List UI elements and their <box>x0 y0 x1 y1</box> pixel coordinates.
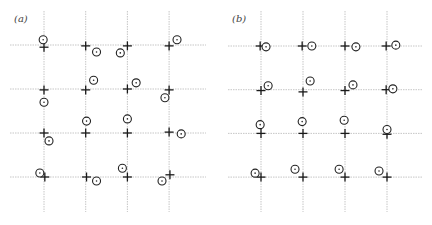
lattice-cross-marker <box>299 129 308 138</box>
displaced-circle-marker <box>335 165 343 173</box>
displaced-circle-marker <box>123 115 131 123</box>
displaced-circle-marker <box>177 130 185 138</box>
displaced-circle-marker <box>40 98 48 106</box>
displaced-circle-marker <box>340 116 348 124</box>
panel-b-grid <box>228 11 422 212</box>
displaced-circle-marker <box>383 125 391 133</box>
displaced-circle-marker <box>39 36 47 44</box>
displaced-circle-marker <box>90 76 98 84</box>
panel-a-label: (a) <box>14 13 28 24</box>
displaced-circle-marker <box>161 94 169 102</box>
displaced-circle-marker <box>93 177 101 185</box>
displaced-circle-marker <box>291 165 299 173</box>
displaced-circle-marker <box>298 118 306 126</box>
lattice-cross-marker <box>341 129 350 138</box>
lattice-figure: (a) (b) <box>0 0 432 225</box>
panel-a-markers <box>36 36 185 185</box>
lattice-cross-marker <box>299 173 308 182</box>
lattice-cross-marker <box>123 41 132 50</box>
lattice-cross-marker <box>165 170 174 179</box>
lattice-cross-marker <box>123 129 132 138</box>
displaced-circle-marker <box>375 167 383 175</box>
panel-b-label: (b) <box>232 13 246 24</box>
displaced-circle-marker <box>45 137 53 145</box>
lattice-cross-marker <box>40 85 49 94</box>
lattice-cross-marker <box>81 85 90 94</box>
panel-b: (b) <box>228 11 422 212</box>
lattice-cross-marker <box>40 129 49 138</box>
displaced-circle-marker <box>173 36 181 44</box>
lattice-cross-marker <box>82 173 91 182</box>
displaced-circle-marker <box>132 79 140 87</box>
lattice-cross-marker <box>341 42 350 51</box>
lattice-cross-marker <box>123 173 132 182</box>
displaced-circle-marker <box>392 41 400 49</box>
lattice-cross-marker <box>257 129 266 138</box>
lattice-cross-marker <box>123 85 132 94</box>
displaced-circle-marker <box>256 121 264 129</box>
displaced-circle-marker <box>158 177 166 185</box>
displaced-circle-marker <box>306 77 314 85</box>
displaced-circle-marker <box>251 169 259 177</box>
displaced-circle-marker <box>349 81 357 89</box>
displaced-circle-marker <box>83 117 91 125</box>
lattice-cross-marker <box>165 85 174 94</box>
displaced-circle-marker <box>389 85 397 93</box>
lattice-cross-marker <box>299 87 308 96</box>
panel-a: (a) <box>10 11 206 212</box>
displaced-circle-marker <box>116 49 124 57</box>
displaced-circle-marker <box>264 82 272 90</box>
lattice-cross-marker <box>81 129 90 138</box>
lattice-cross-marker <box>165 128 174 137</box>
displaced-circle-marker <box>36 169 44 177</box>
lattice-cross-marker <box>341 173 350 182</box>
displaced-circle-marker <box>352 43 360 51</box>
displaced-circle-marker <box>262 43 270 51</box>
lattice-cross-marker <box>382 42 391 51</box>
lattice-cross-marker <box>165 41 174 50</box>
displaced-circle-marker <box>118 164 126 172</box>
displaced-circle-marker <box>93 48 101 56</box>
lattice-cross-marker <box>341 86 350 95</box>
panel-b-markers <box>251 41 400 181</box>
lattice-cross-marker <box>298 42 307 51</box>
lattice-cross-marker <box>383 173 392 182</box>
lattice-cross-marker <box>81 41 90 50</box>
displaced-circle-marker <box>308 42 316 50</box>
